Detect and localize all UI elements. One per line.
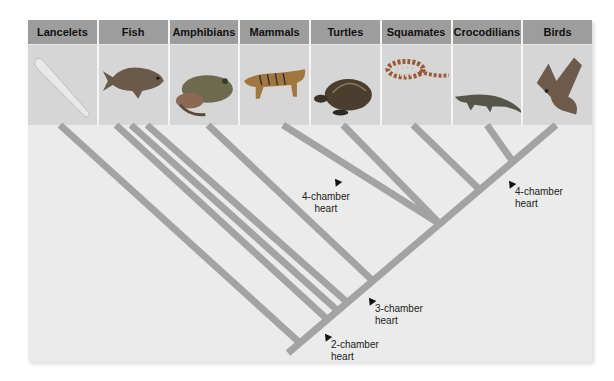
annotation-2-chamber-heart: 2-chamber heart [331, 339, 379, 363]
branch-crocodilians [413, 125, 480, 190]
annotation-4-chamber-heart-mammals: 4-chamber heart [302, 191, 350, 215]
branch-fish [116, 125, 328, 320]
annotation-4-chamber-heart-archosaurs: 4-chamber heart [515, 186, 563, 210]
annotation-3-chamber-heart: 3-chamber heart [375, 303, 423, 327]
branch-birds [487, 125, 513, 162]
